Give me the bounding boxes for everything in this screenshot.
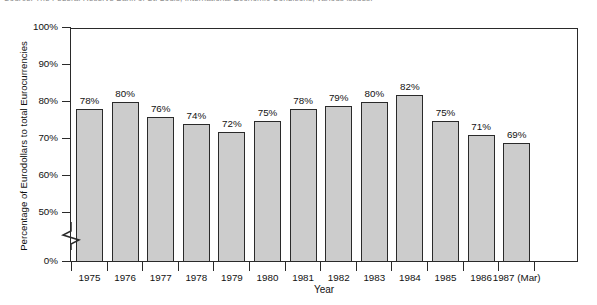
x-axis-tick bbox=[107, 262, 108, 271]
y-axis-tick-label: 90% bbox=[14, 58, 58, 69]
bar bbox=[503, 143, 530, 262]
bar-value-label: 69% bbox=[494, 129, 539, 140]
bar-value-label: 72% bbox=[209, 118, 254, 129]
plot-area bbox=[70, 28, 578, 262]
bar bbox=[468, 135, 495, 262]
bar bbox=[432, 121, 459, 263]
y-axis-tick bbox=[62, 175, 71, 176]
x-axis-tick bbox=[356, 262, 357, 271]
y-axis-tick bbox=[62, 261, 71, 262]
x-axis-tick bbox=[391, 262, 392, 271]
y-axis-tick bbox=[62, 212, 71, 213]
y-axis-tick-label: 80% bbox=[14, 95, 58, 106]
source-note: Source: The Federal Reserve Bank of St. … bbox=[4, 0, 584, 3]
y-axis-tick bbox=[62, 64, 71, 65]
x-axis-tick bbox=[498, 262, 499, 271]
x-axis-tick bbox=[249, 262, 250, 271]
bar bbox=[290, 109, 317, 262]
bar bbox=[218, 132, 245, 262]
x-axis-title: Year bbox=[70, 284, 578, 295]
y-axis-tick-label: 50% bbox=[14, 206, 58, 217]
x-axis-tick bbox=[71, 262, 72, 271]
x-axis-tick bbox=[142, 262, 143, 271]
bar bbox=[183, 124, 210, 262]
y-axis-tick bbox=[62, 138, 71, 139]
x-axis-tick bbox=[285, 262, 286, 271]
bar bbox=[396, 95, 423, 262]
y-axis-tick bbox=[62, 27, 71, 28]
bar bbox=[112, 102, 139, 262]
x-axis-tick bbox=[427, 262, 428, 271]
bar bbox=[325, 106, 352, 262]
bar-value-label: 75% bbox=[245, 107, 290, 118]
bar bbox=[147, 117, 174, 262]
x-axis-tick bbox=[320, 262, 321, 271]
x-axis-tick-label: 1987 (Mar) bbox=[489, 272, 544, 283]
bar bbox=[361, 102, 388, 262]
x-axis-tick bbox=[534, 262, 535, 271]
x-axis-tick bbox=[178, 262, 179, 271]
bar-value-label: 80% bbox=[103, 88, 148, 99]
x-axis-tick bbox=[463, 262, 464, 271]
bar bbox=[254, 121, 281, 263]
bar-value-label: 82% bbox=[387, 81, 432, 92]
y-axis-tick-label: 60% bbox=[14, 169, 58, 180]
axis-break-icon bbox=[60, 222, 82, 250]
y-axis-tick-label: 70% bbox=[14, 132, 58, 143]
y-axis-tick-label: 100% bbox=[14, 21, 58, 32]
y-axis-tick-label: 0% bbox=[14, 255, 58, 266]
x-axis-tick bbox=[213, 262, 214, 271]
bar-value-label: 75% bbox=[423, 107, 468, 118]
